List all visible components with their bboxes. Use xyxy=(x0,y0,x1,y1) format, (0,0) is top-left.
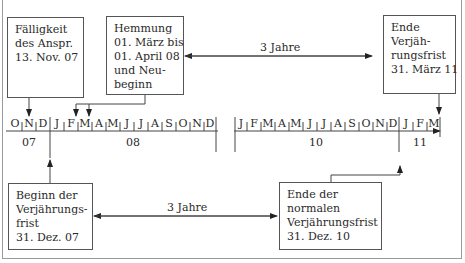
svg-text:08: 08 xyxy=(126,136,140,149)
svg-text:F: F xyxy=(67,117,75,130)
svg-text:11: 11 xyxy=(413,136,427,149)
svg-text:M: M xyxy=(79,117,90,130)
box-ende-verjaehrungsfrist: Ende Verjäh- rungsfrist 31. März 11 xyxy=(383,15,456,94)
svg-text:D: D xyxy=(39,117,48,130)
span-label-top: 3 Jahre xyxy=(260,41,300,54)
month-labels-1: O N D J F M A M J J A S O N D xyxy=(10,117,214,130)
svg-text:A: A xyxy=(333,117,343,130)
year-labels: 07 08 10 11 xyxy=(22,136,427,149)
svg-text:N: N xyxy=(192,117,202,130)
svg-text:07: 07 xyxy=(22,136,36,149)
svg-text:A: A xyxy=(150,117,160,130)
svg-text:N: N xyxy=(24,117,34,130)
svg-text:J: J xyxy=(54,117,59,130)
svg-text:J: J xyxy=(321,117,326,130)
svg-text:J: J xyxy=(403,117,408,130)
svg-text:D: D xyxy=(206,117,215,130)
svg-text:O: O xyxy=(178,117,187,130)
svg-text:J: J xyxy=(138,117,143,130)
svg-text:M: M xyxy=(428,117,439,130)
box-faelligkeit: Fälligkeit des Anspr. 13. Nov. 07 xyxy=(7,17,84,98)
span-label-bottom: 3 Jahre xyxy=(167,201,207,214)
diagram-canvas: O N D J F M A M J J A S O N D J F M A M … xyxy=(0,0,465,263)
svg-text:S: S xyxy=(165,117,173,130)
svg-text:F: F xyxy=(250,117,258,130)
svg-text:N: N xyxy=(375,117,385,130)
svg-text:D: D xyxy=(389,117,398,130)
svg-text:10: 10 xyxy=(309,136,323,149)
svg-text:A: A xyxy=(94,117,104,130)
box-ende-normale-verjaehrungsfrist: Ende der normalen Verjährungsfrist 31. D… xyxy=(279,182,382,250)
svg-text:A: A xyxy=(277,117,287,130)
month-labels-2: J F M A M J J A S O N D J F M xyxy=(238,117,440,130)
svg-text:O: O xyxy=(361,117,370,130)
svg-text:O: O xyxy=(10,117,19,130)
svg-text:M: M xyxy=(262,117,273,130)
svg-text:J: J xyxy=(124,117,129,130)
svg-text:M: M xyxy=(290,117,301,130)
connector-ende-normal xyxy=(331,175,400,182)
box-hemmung: Hemmung 01. März bis 01. April 08 und Ne… xyxy=(106,16,184,95)
box-beginn-verjaehrungsfrist: Beginn der Verjährungs- frist 31. Dez. 0… xyxy=(8,183,93,250)
svg-text:S: S xyxy=(348,117,356,130)
svg-text:J: J xyxy=(307,117,312,130)
svg-text:M: M xyxy=(107,117,118,130)
connector-hemmung xyxy=(76,95,145,104)
svg-text:J: J xyxy=(238,117,243,130)
svg-text:F: F xyxy=(416,117,424,130)
